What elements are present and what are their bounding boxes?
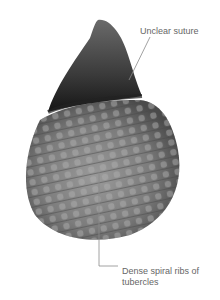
shell-photo [0, 0, 220, 300]
annotation-unclear-suture: Unclear suture [140, 26, 199, 37]
annotation-spiral-ribs: Dense spiral ribs of tubercles [122, 266, 217, 288]
leader-line-suture [129, 37, 150, 80]
